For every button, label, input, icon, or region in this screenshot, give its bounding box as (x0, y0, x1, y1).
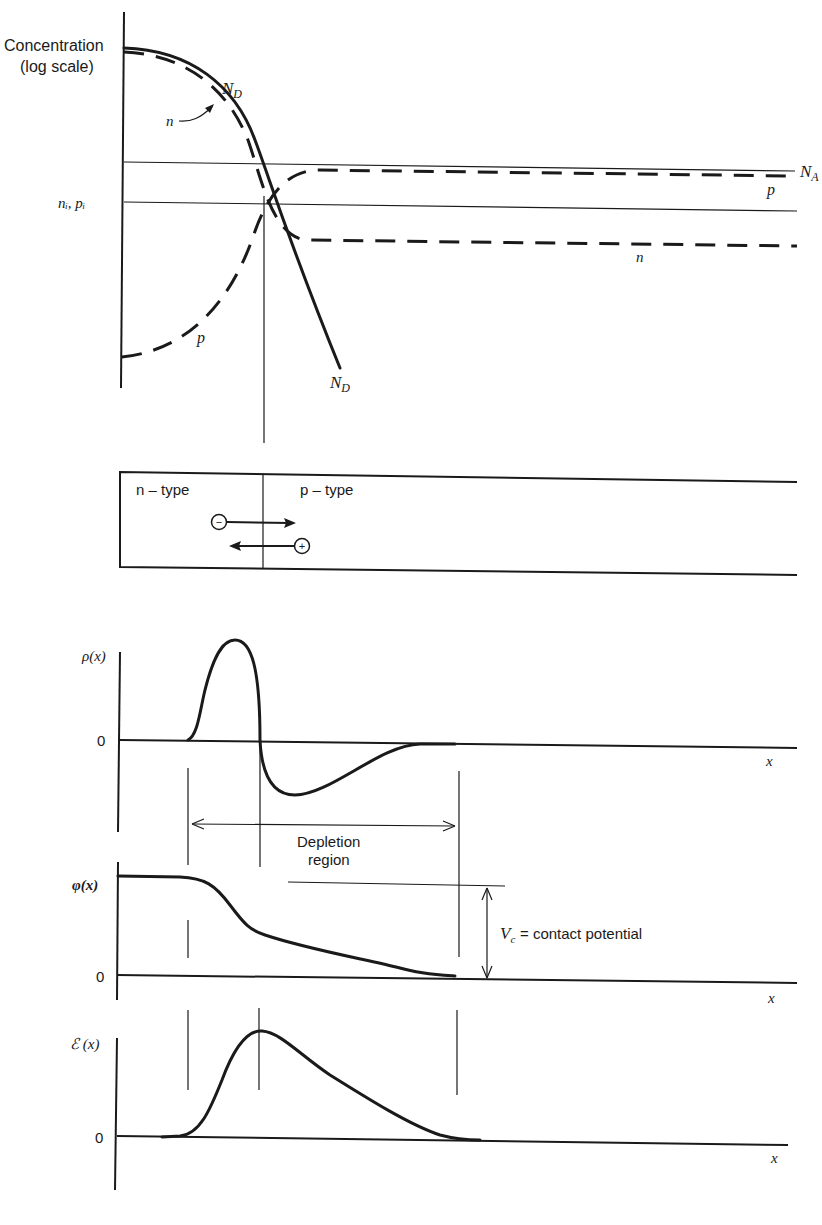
phi-axis-label: φ(x) (72, 877, 98, 894)
ni-pi-label: nᵢ, pᵢ (58, 195, 85, 211)
hole-symbol: + (299, 540, 305, 552)
nd-label-top: ND (221, 79, 242, 101)
field-axis-label: ℰ (x) (70, 1036, 99, 1053)
concentration-plot: Concentration (log scale) nᵢ, pᵢ ND n NA… (4, 12, 819, 443)
contact-potential-label: = contact potential (520, 925, 642, 942)
na-level-line (124, 162, 795, 171)
depletion-width-arrow (192, 824, 455, 826)
electron-symbol: − (216, 516, 222, 528)
pn-junction-diagram: Concentration (log scale) nᵢ, pᵢ ND n NA… (0, 0, 822, 1225)
rho-axis-label: ρ(x) (81, 648, 106, 665)
electric-field-curve (162, 1031, 480, 1140)
phi-x-axis (117, 975, 797, 983)
electron-drift-arrow (227, 522, 290, 523)
phi-zero-label: 0 (96, 968, 104, 985)
field-x-label: x (770, 1150, 778, 1166)
rho-zero-label: 0 (97, 732, 105, 749)
electric-field-plot: ℰ (x) 0 x (70, 1008, 788, 1190)
charge-density-plot: ρ(x) 0 x Depletion region (81, 640, 797, 957)
p-label-right: p (766, 181, 775, 199)
potential-plot: φ(x) 0 x Vc = contact potential (72, 862, 797, 1006)
vc-reference-line (288, 882, 505, 886)
field-zero-label: 0 (95, 1129, 103, 1146)
n-arrow-label: n (166, 113, 174, 129)
depletion-sublabel: region (308, 851, 350, 868)
concentration-y-axis (121, 12, 124, 388)
rho-x-axis (120, 740, 797, 748)
concentration-axis-label: Concentration (4, 37, 104, 54)
concentration-axis-sublabel: (log scale) (20, 58, 94, 75)
junction-bar: n – type p – type − + (120, 472, 797, 575)
nd-label-bottom: ND (329, 373, 350, 395)
rho-x-label: x (765, 753, 773, 769)
phi-x-label: x (767, 990, 775, 1006)
n-label-right: n (636, 249, 644, 265)
phi-y-axis (117, 862, 118, 1000)
p-label-left: p (196, 329, 205, 347)
potential-curve (118, 876, 455, 976)
p-type-label: p – type (300, 481, 353, 498)
vc-label: Vc (500, 924, 515, 945)
charge-density-curve (188, 640, 455, 795)
ni-pi-level-line (124, 202, 797, 211)
rho-y-axis (118, 652, 120, 832)
p-carrier-curve (122, 170, 795, 357)
n-type-label: n – type (136, 481, 189, 498)
field-y-axis (115, 1038, 117, 1190)
depletion-label: Depletion (297, 833, 360, 850)
na-label: NA (799, 162, 819, 184)
